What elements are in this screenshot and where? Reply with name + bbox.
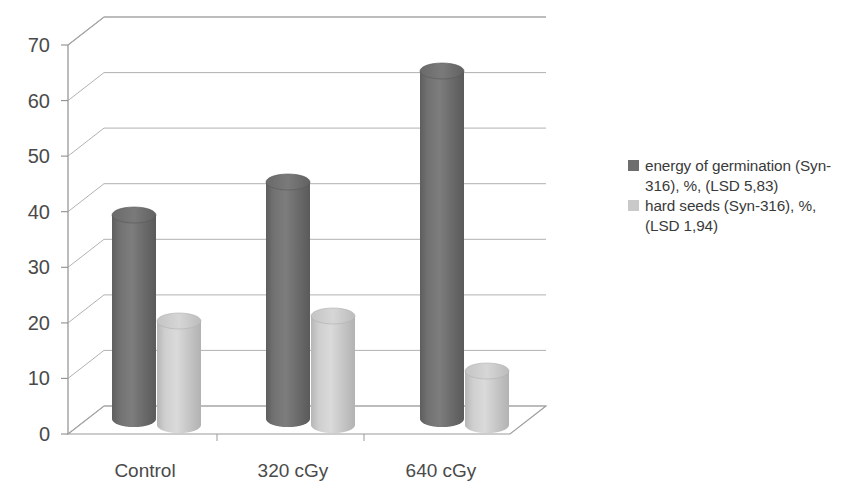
bar-group-640-cgy <box>420 63 509 433</box>
y-tick-label-50: 50 <box>28 145 50 167</box>
chart-container: 70 60 50 40 30 20 10 0 <box>0 0 857 495</box>
legend-item-energy-of-germination[interactable]: energy of germination (Syn-316), %, (LSD… <box>628 156 854 195</box>
x-tick-label-320-cgy: 320 cGy <box>258 460 329 481</box>
bar-body <box>311 316 355 433</box>
x-axis-labels: Control 320 cGy 640 cGy <box>114 460 477 481</box>
bar-640cgy-hard-seeds[interactable] <box>465 363 509 433</box>
bar-chart-3d: 70 60 50 40 30 20 10 0 <box>0 0 857 495</box>
y-axis-labels: 70 60 50 40 30 20 10 0 <box>28 34 50 445</box>
bar-top-cap <box>311 308 355 324</box>
gridline-60 <box>68 73 546 101</box>
legend-item-label: hard seeds (Syn-316), %, (LSD 1,94) <box>645 196 854 235</box>
bar-body <box>266 182 310 427</box>
y-tick-label-0: 0 <box>39 423 50 445</box>
chart-legend: energy of germination (Syn-316), %, (LSD… <box>628 156 854 236</box>
x-tick-label-640-cgy: 640 cGy <box>406 460 477 481</box>
y-tick-label-10: 10 <box>28 367 50 389</box>
bar-320cgy-energy-of-germination[interactable] <box>266 174 310 427</box>
gridline-50 <box>68 128 546 156</box>
y-tick-label-60: 60 <box>28 90 50 112</box>
y-tick-label-40: 40 <box>28 201 50 223</box>
bar-top-cap <box>157 313 201 329</box>
y-tick-label-20: 20 <box>28 312 50 334</box>
bar-body <box>465 371 509 433</box>
bar-320cgy-hard-seeds[interactable] <box>311 308 355 433</box>
bar-group-320-cgy <box>266 174 355 433</box>
bar-body <box>112 215 156 427</box>
y-axis-ticks <box>61 45 68 434</box>
category-separators <box>217 434 364 441</box>
bar-body <box>420 71 464 427</box>
legend-item-hard-seeds[interactable]: hard seeds (Syn-316), %, (LSD 1,94) <box>628 196 854 235</box>
back-wall-top-edge <box>68 17 546 45</box>
bar-top-cap <box>465 363 509 379</box>
bar-top-cap <box>112 207 156 223</box>
legend-swatch-icon <box>628 160 639 171</box>
gridline-70 <box>68 17 546 45</box>
y-tick-label-30: 30 <box>28 256 50 278</box>
bar-640cgy-energy-of-germination[interactable] <box>420 63 464 427</box>
bar-group-control <box>112 207 201 433</box>
bar-body <box>157 321 201 433</box>
bar-control-energy-of-germination[interactable] <box>112 207 156 427</box>
legend-swatch-icon <box>628 200 639 211</box>
legend-item-label: energy of germination (Syn-316), %, (LSD… <box>645 156 854 195</box>
bar-top-cap <box>266 174 310 190</box>
bar-top-cap <box>420 63 464 79</box>
y-tick-label-70: 70 <box>28 34 50 56</box>
bar-control-hard-seeds[interactable] <box>157 313 201 433</box>
x-tick-label-control: Control <box>114 460 175 481</box>
